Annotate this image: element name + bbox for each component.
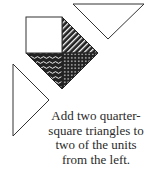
dotted-triangle <box>62 53 98 89</box>
caption-line: Add two quarter- <box>42 109 149 124</box>
caption-line: two of the units <box>42 138 149 153</box>
caption-line: square triangles to <box>42 124 149 139</box>
instruction-caption: Add two quarter- square triangles to two… <box>42 109 149 167</box>
white-square <box>26 17 62 53</box>
caption-line: from the left. <box>42 153 149 168</box>
top-quarter-square-triangle <box>73 4 144 39</box>
